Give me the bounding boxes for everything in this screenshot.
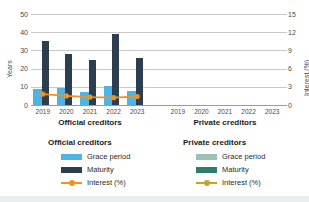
- legend-label: Maturity: [222, 165, 249, 174]
- panel-official-creditors: [31, 14, 149, 105]
- y-tick-left-50: 50: [12, 11, 28, 18]
- legend-swatch-icon: [61, 154, 82, 160]
- legend-item-official-interest[interactable]: Interest (%): [48, 178, 168, 187]
- legend-item-official-maturity[interactable]: Maturity: [48, 165, 168, 174]
- y-tick-left-40: 40: [12, 29, 28, 36]
- legend-swatch-icon: [196, 154, 217, 160]
- interest-marker-2021: [87, 95, 92, 100]
- footer-band: [0, 196, 309, 202]
- interest-marker-2022: [111, 95, 116, 100]
- x-tick-official-2020: 2020: [55, 108, 79, 115]
- y-tick-right-15: 15: [288, 11, 304, 18]
- legend-item-official-grace-period[interactable]: Grace period: [48, 152, 168, 161]
- axis-baseline: [31, 105, 287, 106]
- legend-label: Grace period: [222, 152, 265, 161]
- y-tick-left-30: 30: [12, 47, 28, 54]
- interest-marker-2020: [64, 93, 69, 98]
- y-tick-left-0: 0: [12, 102, 28, 109]
- y-tick-right-6: 6: [288, 65, 304, 72]
- x-tick-private-2021: 2021: [213, 108, 237, 115]
- legend-label: Interest (%): [222, 178, 261, 187]
- y-tick-right-0: 0: [288, 102, 304, 109]
- panel-title-private: Private creditors: [166, 118, 284, 127]
- interest-marker-2019: [40, 91, 45, 96]
- y-tick-left-20: 20: [12, 65, 28, 72]
- x-tick-official-2019: 2019: [31, 108, 55, 115]
- legend-heading-official: Official creditors: [48, 138, 168, 147]
- bar-group-private-2023: [260, 14, 284, 105]
- legend-swatch-line-icon: [61, 178, 82, 187]
- legend-official: Official creditors Grace periodMaturityI…: [48, 138, 168, 193]
- bar-group-private-2020: [190, 14, 214, 105]
- y-tick-right-3: 3: [288, 83, 304, 90]
- legend-label: Maturity: [87, 165, 114, 174]
- legend-private: Private creditors Grace periodMaturityIn…: [183, 138, 303, 193]
- x-tick-official-2023: 2023: [125, 108, 149, 115]
- x-tick-private-2022: 2022: [237, 108, 261, 115]
- chart-figure: Years Interest (%) 50 40 30 20 10 0 15 1…: [0, 0, 309, 202]
- legend-heading-private: Private creditors: [183, 138, 303, 147]
- x-tick-official-2021: 2021: [78, 108, 102, 115]
- x-tick-private-2023: 2023: [260, 108, 284, 115]
- legend-label: Interest (%): [87, 178, 126, 187]
- legend-swatch-icon: [61, 167, 82, 173]
- legend-item-private-maturity[interactable]: Maturity: [183, 165, 303, 174]
- y-tick-right-12: 12: [288, 29, 304, 36]
- panel-title-official: Official creditors: [31, 118, 149, 127]
- legend-item-private-interest[interactable]: Interest (%): [183, 178, 303, 187]
- panel-private-creditors: [166, 14, 284, 105]
- legend-swatch-line-icon: [196, 178, 217, 187]
- legend-label: Grace period: [87, 152, 130, 161]
- bar-group-private-2019: [166, 14, 190, 105]
- x-tick-official-2022: 2022: [102, 108, 126, 115]
- interest-line-official: [31, 14, 149, 105]
- legend-item-private-grace-period[interactable]: Grace period: [183, 152, 303, 161]
- interest-marker-2023: [135, 94, 140, 99]
- y-tick-right-9: 9: [288, 47, 304, 54]
- legend-swatch-icon: [196, 167, 217, 173]
- x-tick-private-2019: 2019: [166, 108, 190, 115]
- bar-group-private-2022: [237, 14, 261, 105]
- x-tick-private-2020: 2020: [190, 108, 214, 115]
- bar-group-private-2021: [213, 14, 237, 105]
- y-tick-left-10: 10: [12, 83, 28, 90]
- plot-area: Years Interest (%) 50 40 30 20 10 0 15 1…: [0, 0, 309, 128]
